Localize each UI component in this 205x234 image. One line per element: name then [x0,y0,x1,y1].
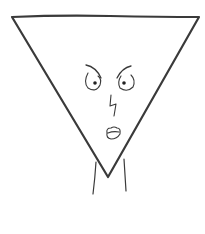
neck-left-line [93,162,96,194]
drawing-canvas [0,0,205,234]
triangle-body [12,16,199,177]
left-pupil-icon [93,81,97,85]
right-pupil-icon [122,81,126,85]
neck-right-line [124,159,126,191]
